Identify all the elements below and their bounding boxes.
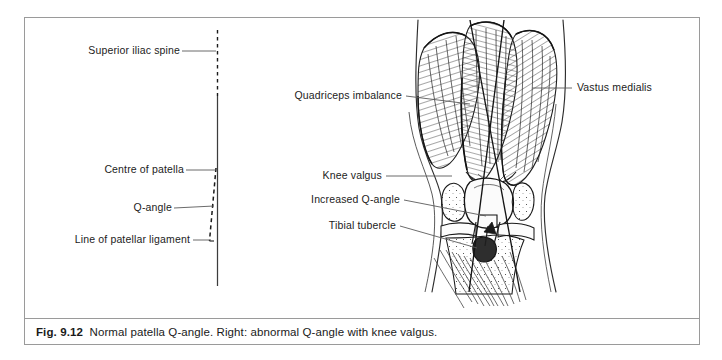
label-q-angle: Q-angle: [46, 201, 172, 213]
right-valgus-knee-illustration: [386, 20, 572, 308]
label-superior-iliac-spine: Superior iliac spine: [40, 44, 180, 56]
lateral-femoral-condyle: [512, 183, 534, 220]
label-vastus-medialis: Vastus medialis: [577, 81, 707, 93]
tibial-tubercle: [473, 237, 497, 262]
patellar-ligament-line-dashed: [210, 168, 217, 241]
label-increased-q-angle: Increased Q-angle: [262, 193, 400, 205]
tibial-plateau-medial: [441, 223, 476, 237]
label-quadriceps-imbalance: Quadriceps imbalance: [268, 89, 402, 101]
label-tibial-tubercle: Tibial tubercle: [266, 219, 396, 231]
label-centre-of-patella: Centre of patella: [46, 163, 184, 175]
medial-femoral-condyle: [442, 183, 466, 221]
label-knee-valgus: Knee valgus: [266, 169, 382, 181]
figure-container: Superior iliac spine Centre of patella Q…: [0, 0, 722, 360]
patella: [464, 178, 513, 228]
vastus-medialis-belly: [502, 31, 557, 186]
label-line-of-patellar-ligament: Line of patellar ligament: [40, 233, 190, 245]
figure-number: Fig. 9.12: [36, 326, 83, 338]
figure-caption-text: Normal patella Q-angle. Right: abnormal …: [90, 326, 438, 338]
left-normal-q-angle-diagram: [174, 30, 218, 286]
figure-caption: Fig. 9.12 Normal patella Q-angle. Right:…: [36, 326, 686, 338]
leader-q-angle: [174, 206, 214, 208]
